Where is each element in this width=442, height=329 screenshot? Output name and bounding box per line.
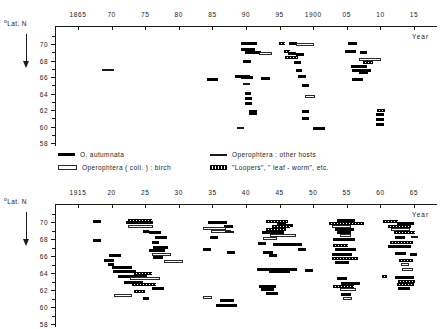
x-axis-tick bbox=[78, 26, 79, 30]
outbreak-bar bbox=[382, 275, 387, 278]
outbreak-bar bbox=[343, 297, 352, 300]
outbreak-bar bbox=[360, 51, 367, 54]
outbreak-bar bbox=[266, 292, 278, 295]
outbreak-bar bbox=[237, 127, 244, 129]
y-axis-minor-tick bbox=[52, 282, 55, 283]
outbreak-bar bbox=[102, 69, 113, 71]
outbreak-bar bbox=[294, 61, 301, 64]
outbreak-bar bbox=[273, 243, 303, 246]
x-axis-tick bbox=[212, 204, 213, 208]
outbreak-bar bbox=[298, 75, 305, 78]
y-axis-tick bbox=[51, 110, 55, 111]
outbreak-bar bbox=[261, 77, 270, 80]
x-axis-tick-label: 95 bbox=[275, 11, 283, 18]
y-axis-tick-label: 70 bbox=[30, 41, 48, 48]
outbreak-bar bbox=[114, 294, 131, 297]
y-axis-tick-label: 58 bbox=[30, 140, 48, 147]
x-axis-tick-label: 55 bbox=[343, 189, 351, 196]
y-axis-minor-tick bbox=[52, 299, 55, 300]
panel-top: oLat. N Year 186570758085909519000510157… bbox=[0, 0, 442, 148]
x-axis-tick-label: 20 bbox=[107, 189, 115, 196]
outbreak-bar bbox=[245, 51, 261, 54]
outbreak-bar bbox=[263, 237, 276, 240]
outbreak-bar bbox=[227, 251, 235, 254]
x-axis-tick-label: 10 bbox=[376, 11, 384, 18]
x-axis-tick-label: 60 bbox=[376, 189, 384, 196]
y-axis-tick bbox=[51, 239, 55, 240]
x-axis-tick-label: 85 bbox=[208, 11, 216, 18]
y-axis-tick-label: 64 bbox=[30, 270, 48, 277]
legend-item-birch: Operophtera ( coll. ) : birch bbox=[58, 164, 171, 171]
x-axis-tick bbox=[246, 204, 247, 208]
outbreak-bar bbox=[411, 236, 418, 238]
x-axis-tick-label: 90 bbox=[242, 11, 250, 18]
outbreak-bar bbox=[134, 290, 145, 293]
outbreak-bar bbox=[153, 256, 162, 259]
x-axis-tick bbox=[380, 26, 381, 30]
outbreak-bar bbox=[113, 270, 136, 273]
y-axis-tick-label: 60 bbox=[30, 123, 48, 130]
x-axis-tick-label: 1915 bbox=[70, 189, 87, 196]
outbreak-bar bbox=[152, 241, 159, 244]
y-axis-minor-tick bbox=[52, 118, 55, 119]
y-axis-minor-tick bbox=[52, 265, 55, 266]
outbreak-bar bbox=[394, 231, 416, 234]
outbreak-bar bbox=[363, 61, 373, 64]
y-axis-tick bbox=[51, 324, 55, 325]
y-axis-minor-tick bbox=[52, 316, 55, 317]
outbreak-bar bbox=[296, 43, 314, 46]
outbreak-bar bbox=[93, 239, 101, 242]
panel-bottom: oLat. N Year 191520253035404550556065706… bbox=[0, 178, 442, 329]
y-axis-minor-tick bbox=[52, 214, 55, 215]
outbreak-bar bbox=[302, 117, 309, 120]
outbreak-bar bbox=[241, 42, 256, 45]
y-axis-tick-label: 68 bbox=[30, 236, 48, 243]
outbreak-bar bbox=[332, 253, 352, 256]
legend-swatch-autumnata-icon bbox=[58, 153, 75, 156]
outbreak-bar bbox=[245, 102, 252, 105]
x-axis-tick-label: 40 bbox=[242, 189, 250, 196]
x-axis-tick bbox=[145, 204, 146, 208]
outbreak-bar bbox=[149, 231, 161, 234]
outbreak-bar bbox=[279, 42, 285, 45]
y-axis-tick bbox=[51, 61, 55, 62]
x-axis-tick bbox=[78, 204, 79, 208]
outbreak-bar bbox=[152, 287, 164, 290]
x-axis-tick bbox=[179, 204, 180, 208]
outbreak-bar bbox=[390, 241, 413, 244]
y-axis-tick bbox=[51, 256, 55, 257]
x-axis-tick-label: 45 bbox=[275, 189, 283, 196]
x-axis-tick bbox=[246, 26, 247, 30]
outbreak-bar bbox=[395, 252, 406, 255]
x-axis-tick bbox=[112, 204, 113, 208]
y-axis-title-text: Lat. N bbox=[7, 20, 27, 27]
x-axis-tick bbox=[280, 204, 281, 208]
x-axis-tick-label: 1865 bbox=[70, 11, 87, 18]
x-axis-tick bbox=[145, 26, 146, 30]
outbreak-bar bbox=[225, 231, 234, 233]
y-axis-tick bbox=[51, 307, 55, 308]
outbreak-bar bbox=[143, 297, 150, 300]
x-axis-tick bbox=[212, 26, 213, 30]
outbreak-bar bbox=[401, 263, 409, 266]
outbreak-bar bbox=[245, 92, 252, 95]
legend-label-birch: Operophtera ( coll. ) : birch bbox=[82, 164, 171, 171]
outbreak-timeline-figure: oLat. N Year 186570758085909519000510157… bbox=[0, 0, 442, 329]
y-axis-minor-tick bbox=[52, 36, 55, 37]
legend-swatch-loopers-icon bbox=[210, 165, 227, 170]
outbreak-bar bbox=[143, 230, 150, 233]
outbreak-bar bbox=[285, 56, 298, 59]
x-axis-tick bbox=[414, 26, 415, 30]
y-axis-title-top: oLat. N bbox=[4, 18, 27, 27]
legend: O. autumnata Operophtera ( coll. ) : bir… bbox=[0, 149, 442, 178]
outbreak-bar bbox=[337, 277, 346, 280]
x-axis-tick bbox=[280, 26, 281, 30]
outbreak-bar bbox=[376, 118, 384, 121]
y-axis-tick-label: 60 bbox=[30, 304, 48, 311]
outbreak-bar bbox=[302, 84, 309, 87]
x-axis-tick-label: 65 bbox=[410, 189, 418, 196]
x-axis-tick bbox=[347, 204, 348, 208]
y-axis-minor-tick bbox=[52, 52, 55, 53]
outbreak-bar bbox=[296, 69, 303, 72]
y-axis-tick-label: 66 bbox=[30, 74, 48, 81]
